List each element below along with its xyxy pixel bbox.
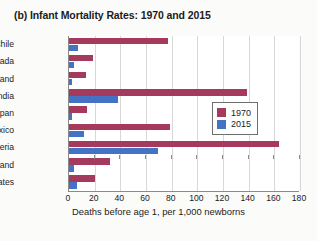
legend-swatch-1970 — [217, 108, 226, 117]
bar-chile-1970 — [69, 38, 168, 44]
bar-group — [69, 36, 299, 53]
bar-chile-2015 — [69, 45, 78, 51]
legend-label-2015: 2015 — [231, 119, 251, 129]
x-axis-tick — [94, 155, 95, 159]
bar-finland-1970 — [69, 72, 86, 78]
legend-label-1970: 1970 — [231, 108, 251, 118]
bar-nigeria-2015 — [69, 148, 158, 154]
x-axis-tick — [68, 155, 69, 159]
bar-group — [69, 70, 299, 87]
x-axis-tick — [119, 155, 120, 159]
chart-title: (b) Infant Mortality Rates: 1970 and 201… — [14, 9, 211, 21]
bar-canada-1970 — [69, 55, 93, 61]
bar-india-2015 — [69, 96, 118, 102]
x-axis-tick — [299, 155, 300, 159]
x-axis-tick — [248, 155, 249, 159]
x-axis-line — [68, 191, 299, 192]
bar-group — [69, 174, 299, 191]
bar-united-states-1970 — [69, 175, 95, 181]
bar-mexico-2015 — [69, 131, 84, 137]
legend-item-2015: 2015 — [217, 119, 251, 129]
bar-group — [69, 105, 299, 122]
chart-legend: 1970 2015 — [212, 102, 258, 135]
y-axis-label-mexico: Mexico — [0, 125, 14, 135]
x-axis-tick — [222, 155, 223, 159]
x-axis-tick — [196, 155, 197, 159]
bar-india-1970 — [69, 89, 247, 95]
bar-canada-2015 — [69, 62, 74, 68]
bar-finland-2015 — [69, 79, 72, 85]
bar-group — [69, 53, 299, 70]
bar-poland-1970 — [69, 158, 110, 164]
bar-group — [69, 157, 299, 174]
gridline — [300, 36, 301, 191]
x-axis-label: Deaths before age 1, per 1,000 newborns — [0, 206, 317, 217]
bar-group — [69, 122, 299, 139]
bar-nigeria-1970 — [69, 141, 279, 147]
bar-mexico-1970 — [69, 124, 170, 130]
y-axis-label-finland: Finland — [0, 74, 14, 84]
x-axis-tick-label: 180 — [284, 193, 314, 203]
bar-poland-2015 — [69, 165, 74, 171]
legend-swatch-2015 — [217, 120, 226, 129]
bar-japan-1970 — [69, 106, 87, 112]
y-axis-label-canada: Canada — [0, 56, 14, 66]
x-axis-tick — [145, 155, 146, 159]
x-axis-tick — [273, 155, 274, 159]
bar-group — [69, 139, 299, 156]
bar-japan-2015 — [69, 113, 72, 119]
y-axis-label-japan: Japan — [0, 108, 14, 118]
legend-item-1970: 1970 — [217, 108, 251, 118]
y-axis-label-india: India — [0, 91, 14, 101]
y-axis-label-united-states: United States — [0, 177, 14, 187]
y-axis-label-nigeria: Nigeria — [0, 142, 14, 152]
bar-group — [69, 88, 299, 105]
x-axis-tick — [171, 155, 172, 159]
bar-united-states-2015 — [69, 182, 77, 188]
plot-area — [68, 36, 299, 191]
y-axis-label-poland: Poland — [0, 160, 14, 170]
y-axis-label-chile: Chile — [0, 39, 14, 49]
